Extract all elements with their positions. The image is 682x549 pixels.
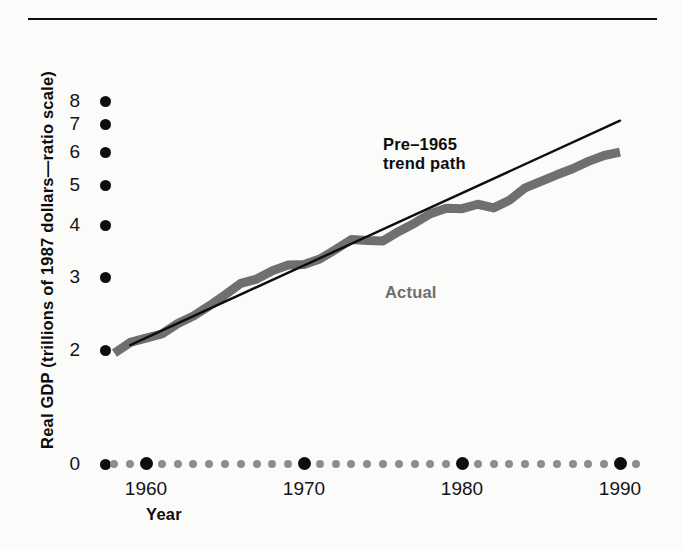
plot-area bbox=[0, 0, 682, 549]
gdp-trend-figure: Real GDP (trillions of 1987 dollars—rati… bbox=[0, 0, 682, 549]
trend-path-annotation: Pre–1965 trend path bbox=[383, 135, 466, 173]
actual-series-annotation: Actual bbox=[385, 283, 437, 302]
x-axis-title: Year bbox=[146, 505, 182, 524]
actual-series-line bbox=[114, 152, 620, 353]
trend-series-line bbox=[130, 121, 620, 345]
trend-annotation-line-1: Pre–1965 bbox=[383, 135, 466, 154]
trend-annotation-line-2: trend path bbox=[383, 154, 466, 173]
